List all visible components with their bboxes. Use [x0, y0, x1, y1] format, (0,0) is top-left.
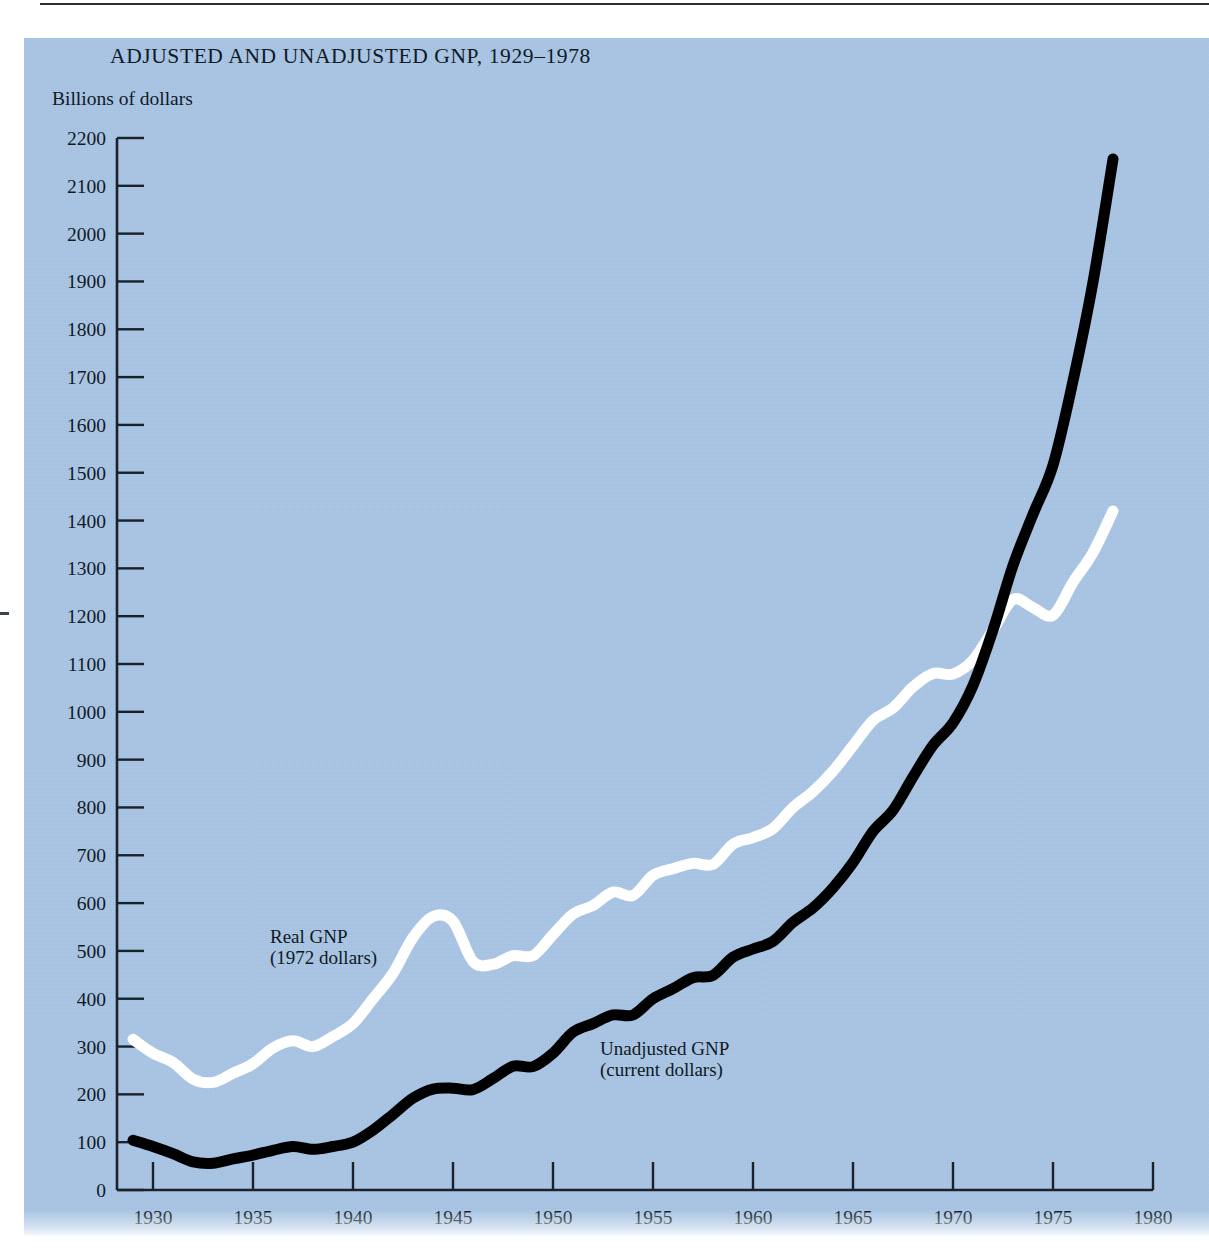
y-tick-label: 100 [77, 1132, 106, 1153]
y-tick-label: 700 [77, 845, 106, 866]
chart-plate: ADJUSTED AND UNADJUSTED GNP, 1929–1978 B… [24, 38, 1209, 1236]
y-tick-label: 1800 [67, 319, 106, 340]
x-tick-label: 1975 [1034, 1207, 1073, 1228]
x-tick-label: 1980 [1134, 1207, 1173, 1228]
y-tick-label: 0 [96, 1180, 106, 1201]
x-tick-label: 1970 [934, 1207, 973, 1228]
page-top-rule [40, 3, 1209, 5]
x-tick-label: 1935 [234, 1207, 273, 1228]
y-tick-label: 1500 [67, 463, 106, 484]
x-tick-label: 1940 [334, 1207, 373, 1228]
figure-page: ADJUSTED AND UNADJUSTED GNP, 1929–1978 B… [0, 0, 1209, 1260]
y-tick-label: 1000 [67, 702, 106, 723]
x-tick-label: 1950 [534, 1207, 573, 1228]
margin-tick-mark [0, 612, 9, 615]
x-tick-label: 1955 [634, 1207, 673, 1228]
y-tick-label: 200 [77, 1084, 106, 1105]
annotation-real-gnp-line1: Real GNP [270, 926, 377, 947]
y-tick-label: 900 [77, 750, 106, 771]
x-axis-ticks: 1930193519401945195019551960196519701975… [134, 1162, 1173, 1228]
x-tick-label: 1965 [834, 1207, 873, 1228]
y-tick-label: 1100 [68, 654, 106, 675]
y-tick-label: 300 [77, 1037, 106, 1058]
series-line-real-gnp [133, 511, 1113, 1083]
annotation-unadjusted-gnp-line1: Unadjusted GNP [600, 1038, 729, 1059]
y-tick-label: 2100 [67, 176, 106, 197]
y-tick-label: 1600 [67, 415, 106, 436]
annotation-unadjusted-gnp-line2: (current dollars) [600, 1059, 729, 1080]
x-tick-label: 1960 [734, 1207, 773, 1228]
y-tick-label: 1300 [67, 558, 106, 579]
x-tick-label: 1945 [434, 1207, 473, 1228]
y-tick-label: 800 [77, 797, 106, 818]
y-tick-label: 1900 [67, 271, 106, 292]
x-tick-label: 1930 [134, 1207, 173, 1228]
y-tick-label: 1400 [67, 511, 106, 532]
y-tick-label: 2200 [67, 128, 106, 149]
y-tick-label: 1200 [67, 606, 106, 627]
annotation-real-gnp-line2: (1972 dollars) [270, 947, 377, 968]
y-tick-label: 2000 [67, 224, 106, 245]
annotation-real-gnp: Real GNP (1972 dollars) [270, 926, 377, 969]
y-tick-label: 500 [77, 941, 106, 962]
y-tick-label: 600 [77, 893, 106, 914]
y-tick-label: 400 [77, 989, 106, 1010]
annotation-unadjusted-gnp: Unadjusted GNP (current dollars) [600, 1038, 729, 1081]
y-tick-label: 1700 [67, 367, 106, 388]
